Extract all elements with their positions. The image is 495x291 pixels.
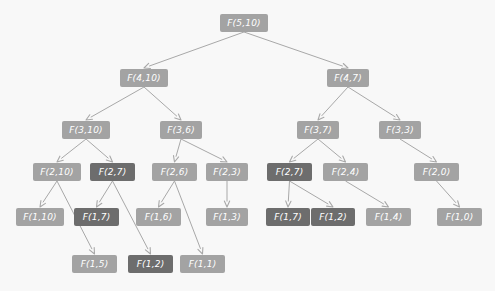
arrowhead-icon: [430, 157, 436, 162]
tree-node[interactable]: F(3,10): [62, 121, 110, 139]
tree-node[interactable]: F(1,10): [16, 208, 64, 226]
tree-edge: [161, 181, 174, 202]
tree-node[interactable]: F(1,2): [128, 255, 173, 273]
arrowhead-icon: [382, 202, 388, 207]
arrowhead-icon: [327, 202, 333, 207]
arrowhead-icon: [286, 201, 291, 207]
tree-edge: [176, 139, 181, 157]
tree-edge: [318, 139, 341, 158]
tree-node[interactable]: F(2,0): [414, 163, 459, 181]
tree-edge: [346, 181, 384, 204]
tree-edge: [99, 181, 112, 202]
tree-node[interactable]: F(3,7): [297, 121, 339, 139]
tree-node[interactable]: F(1,5): [72, 255, 117, 273]
tree-node[interactable]: F(1,4): [366, 208, 411, 226]
tree-edge: [294, 139, 318, 158]
tree-edge: [244, 32, 343, 66]
tree-edge: [181, 139, 222, 159]
tree-node[interactable]: F(1,3): [206, 208, 248, 226]
tree-edge: [288, 181, 289, 202]
tree-node[interactable]: F(2,3): [206, 163, 248, 181]
recursion-tree-edges: [0, 0, 495, 291]
tree-edge: [290, 181, 329, 204]
tree-node[interactable]: F(1,0): [437, 208, 482, 226]
arrowhead-icon: [394, 115, 400, 120]
tree-node[interactable]: F(1,6): [136, 208, 181, 226]
arrowhead-icon: [97, 201, 102, 207]
tree-node[interactable]: F(2,4): [323, 163, 368, 181]
tree-edge: [91, 87, 144, 117]
tree-node[interactable]: F(4,10): [120, 69, 168, 87]
arrowhead-icon: [224, 201, 229, 207]
tree-edge: [149, 32, 244, 66]
tree-edge: [43, 181, 57, 202]
tree-edge: [144, 87, 177, 116]
tree-edge: [86, 139, 108, 158]
tree-node[interactable]: F(4,7): [327, 69, 369, 87]
tree-node[interactable]: F(2,7): [90, 163, 135, 181]
tree-node[interactable]: F(2,7): [267, 163, 312, 181]
tree-node[interactable]: F(3,6): [160, 121, 202, 139]
tree-node[interactable]: F(5,10): [220, 14, 268, 32]
tree-edge: [348, 87, 395, 117]
tree-edge: [400, 139, 432, 159]
arrowhead-icon: [159, 201, 164, 207]
tree-node[interactable]: F(1,7): [74, 208, 119, 226]
tree-edge: [322, 87, 348, 116]
tree-node[interactable]: F(1,1): [180, 255, 225, 273]
tree-edge: [61, 139, 86, 158]
tree-node[interactable]: F(2,10): [33, 163, 81, 181]
tree-node[interactable]: F(1,7): [266, 208, 310, 226]
tree-edge: [437, 181, 456, 203]
tree-node[interactable]: F(2,6): [152, 163, 197, 181]
tree-node[interactable]: F(3,3): [379, 121, 421, 139]
arrowhead-icon: [40, 201, 45, 207]
tree-node[interactable]: F(1,2): [311, 208, 355, 226]
